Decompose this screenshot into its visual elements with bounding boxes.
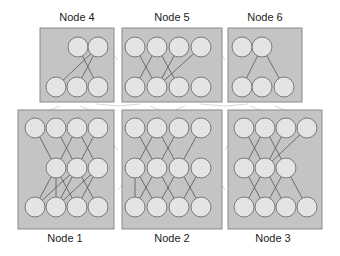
neuron [252,77,272,97]
neuron [276,118,296,138]
neuron [68,37,88,57]
node4-group: Node 4 [40,11,114,102]
node6-group: Node 6 [228,11,302,102]
node5-label: Node 5 [154,11,189,23]
cross-node-edge [175,106,185,110]
neuron [25,197,45,217]
cross-node-edge [80,106,90,110]
neuron [67,197,87,217]
neuron [232,77,252,97]
cross-node-edge [200,104,225,106]
neuron [125,118,145,138]
neuron [147,197,167,217]
neuron [297,118,317,138]
node6-label: Node 6 [247,11,282,23]
neuron [297,197,317,217]
neuron [191,37,211,57]
neuron [276,158,296,178]
neuron [67,77,87,97]
node3-label: Node 3 [255,232,290,244]
neuron [191,118,211,138]
neuron [169,77,189,97]
neuron [147,77,167,97]
cross-node-edge [118,104,140,106]
neuron [147,37,167,57]
neuron [234,118,254,138]
neuron [255,158,275,178]
neuron [125,197,145,217]
neuron [125,158,145,178]
neuron [255,197,275,217]
neuron [88,37,108,57]
node4-label: Node 4 [59,11,94,23]
cross-node-edge [275,106,285,110]
neuron [255,118,275,138]
neuron [67,158,87,178]
node5-group: Node 5 [122,11,222,102]
neuron [88,118,108,138]
neural-network-partition-diagram: Node 4Node 5Node 6Node 1Node 2Node 3 [0,0,340,256]
neuron [169,37,189,57]
neuron [46,77,66,97]
neuron [147,158,167,178]
neuron [125,77,145,97]
neuron [67,118,87,138]
neuron [88,158,108,178]
neuron [46,197,66,217]
neuron [46,158,66,178]
neuron [125,37,145,57]
neuron [169,197,189,217]
node1-label: Node 1 [47,232,82,244]
cross-node-edge [150,106,160,110]
nodes: Node 4Node 5Node 6Node 1Node 2Node 3 [18,11,322,244]
node3-group: Node 3 [228,110,322,244]
cross-node-edge [96,104,118,106]
neuron [234,158,254,178]
neuron [88,197,108,217]
cross-node-edge [114,55,118,60]
neuron [147,118,167,138]
neuron [232,37,252,57]
cross-node-edge [114,145,118,150]
cross-node-edge [250,106,260,110]
cross-node-edge [118,185,122,190]
neuron [191,77,211,97]
neuron [46,118,66,138]
node2-group: Node 2 [122,110,222,244]
neuron [169,118,189,138]
neuron [191,158,211,178]
neuron [191,197,211,217]
cross-node-edge [50,106,60,110]
neuron [274,77,294,97]
node2-label: Node 2 [154,232,189,244]
neuron [25,118,45,138]
node1-group: Node 1 [18,110,114,244]
cross-node-edge [225,104,248,106]
neuron [252,37,272,57]
neuron [88,77,108,97]
neuron [276,197,296,217]
neuron [234,197,254,217]
neuron [169,158,189,178]
